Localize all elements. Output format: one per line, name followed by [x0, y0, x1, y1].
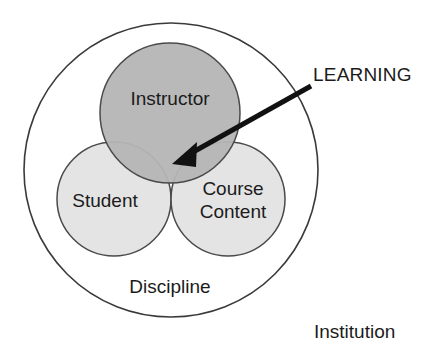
label-institution: Institution — [314, 321, 395, 342]
label-student: Student — [72, 190, 138, 211]
label-instructor: Instructor — [130, 88, 210, 109]
label-discipline: Discipline — [129, 276, 210, 297]
circle-instructor[interactable] — [100, 43, 240, 183]
label-course-content-line2: Content — [200, 201, 267, 222]
venn-diagram-canvas: Instructor Student Course Content Discip… — [0, 0, 431, 360]
venn-diagram-svg: Instructor Student Course Content Discip… — [0, 0, 431, 360]
label-learning: LEARNING — [313, 64, 412, 85]
label-course-content-line1: Course — [202, 178, 263, 199]
